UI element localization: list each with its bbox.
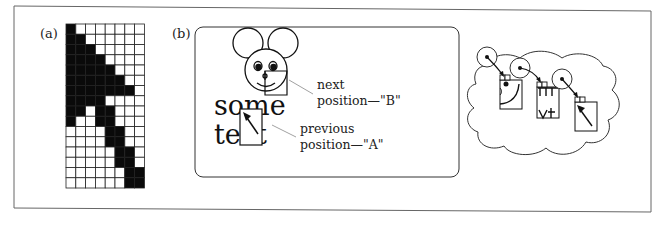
figure: some text next position—"B" previous pos… <box>0 0 668 226</box>
grid-cell-empty <box>135 106 145 116</box>
grid-cell-empty <box>125 116 135 126</box>
grid-cell-filled <box>105 116 115 126</box>
grid-cell-filled <box>105 86 115 96</box>
grid-cell-empty <box>66 127 76 137</box>
grid-cell-filled <box>66 55 76 65</box>
grid-cell-empty <box>125 106 135 116</box>
grid-cell-filled <box>115 86 125 96</box>
grid-cell-empty <box>105 147 115 157</box>
grid-cell-empty <box>105 168 115 178</box>
figure-canvas: some text next position—"B" previous pos… <box>0 0 668 226</box>
grid-cell-empty <box>76 178 86 188</box>
grid-cell-empty <box>115 65 125 75</box>
grid-cell-empty <box>86 24 96 34</box>
grid-cell-empty <box>95 45 105 55</box>
grid-cell-empty <box>135 147 145 157</box>
grid-cell-filled <box>86 86 96 96</box>
grid-cell-empty <box>115 178 125 188</box>
grid-cell-filled <box>86 45 96 55</box>
grid-cell-filled <box>115 157 125 167</box>
grid-cell-empty <box>125 96 135 106</box>
cloud-box-1 <box>500 75 522 109</box>
grid-cell-filled <box>95 75 105 85</box>
grid-cell-empty <box>86 116 96 126</box>
grid-cell-empty <box>115 55 125 65</box>
grid-cell-empty <box>76 157 86 167</box>
grid-cell-empty <box>86 168 96 178</box>
grid-cell-empty <box>95 127 105 137</box>
grid-cell-filled <box>76 45 86 55</box>
grid-cell-filled <box>95 96 105 106</box>
grid-cell-empty <box>125 75 135 85</box>
grid-cell-filled <box>66 34 76 44</box>
grid-cell-filled <box>95 106 105 116</box>
grid-cell-empty <box>95 34 105 44</box>
bitmap-grid <box>66 24 144 188</box>
grid-cell-empty <box>95 178 105 188</box>
grid-cell-empty <box>86 106 96 116</box>
grid-cell-empty <box>105 34 115 44</box>
grid-cell-empty <box>135 116 145 126</box>
grid-cell-empty <box>95 168 105 178</box>
grid-cell-filled <box>115 137 125 147</box>
grid-cell-empty <box>135 75 145 85</box>
grid-cell-filled <box>66 116 76 126</box>
grid-cell-filled <box>76 34 86 44</box>
grid-cell-empty <box>115 116 125 126</box>
grid-cell-filled <box>86 75 96 85</box>
grid-cell-filled <box>76 55 86 65</box>
grid-cell-empty <box>76 168 86 178</box>
grid-cell-filled <box>125 178 135 188</box>
grid-cell-empty <box>135 45 145 55</box>
grid-cell-empty <box>135 86 145 96</box>
grid-cell-empty <box>76 147 86 157</box>
grid-cell-filled <box>95 55 105 65</box>
grid-cell-empty <box>66 147 76 157</box>
callout-previous-line-2: position—"A" <box>300 137 384 152</box>
grid-cell-empty <box>95 137 105 147</box>
callout-previous-line-1: previous <box>300 121 354 136</box>
leader-line-previous <box>272 125 296 137</box>
grid-cell-filled <box>95 86 105 96</box>
grid-cell-filled <box>125 86 135 96</box>
grid-cell-filled <box>105 127 115 137</box>
grid-cell-empty <box>95 157 105 167</box>
grid-cell-filled <box>105 65 115 75</box>
grid-cell-empty <box>135 24 145 34</box>
grid-cell-filled <box>125 147 135 157</box>
grid-cell-empty <box>125 45 135 55</box>
grid-cell-empty <box>76 127 86 137</box>
cloud-box-3 <box>575 97 597 131</box>
grid-cell-empty <box>135 96 145 106</box>
grid-cell-empty <box>125 127 135 137</box>
grid-cell-empty <box>105 45 115 55</box>
grid-cell-empty <box>115 34 125 44</box>
grid-cell-empty <box>135 137 145 147</box>
previous-position-box <box>240 109 262 145</box>
grid-cell-empty <box>86 127 96 137</box>
grid-cell-empty <box>135 55 145 65</box>
grid-cell-filled <box>86 65 96 75</box>
grid-cell-empty <box>115 24 125 34</box>
grid-cell-empty <box>66 178 76 188</box>
grid-cell-filled <box>66 24 76 34</box>
grid-cell-empty <box>135 157 145 167</box>
grid-cell-empty <box>115 45 125 55</box>
grid-cell-empty <box>115 96 125 106</box>
grid-cell-empty <box>105 96 115 106</box>
grid-cell-empty <box>76 24 86 34</box>
grid-cell-empty <box>125 55 135 65</box>
grid-cell-filled <box>76 75 86 85</box>
grid-cell-empty <box>125 65 135 75</box>
grid-cell-empty <box>115 106 125 116</box>
grid-cell-empty <box>135 65 145 75</box>
grid-cell-filled <box>66 106 76 116</box>
callout-next-line-1: next <box>317 77 345 92</box>
grid-cell-empty <box>105 55 115 65</box>
grid-cell-filled <box>76 106 86 116</box>
grid-cell-empty <box>135 127 145 137</box>
grid-cell-empty <box>115 168 125 178</box>
grid-cell-empty <box>66 137 76 147</box>
grid-cell-filled <box>115 147 125 157</box>
grid-cell-filled <box>105 106 115 116</box>
